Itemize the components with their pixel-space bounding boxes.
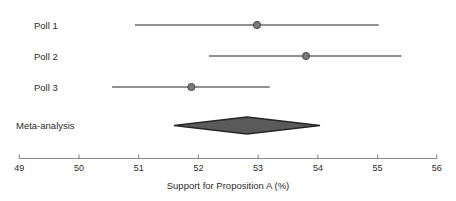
point-estimate-marker-poll2 [302,52,309,59]
forest-plot-canvas: Poll 1 Poll 2 Poll 3 Meta-analysis 49 50… [0,0,456,201]
point-estimate-marker-poll3 [188,83,195,90]
study-label-meta-analysis: Meta-analysis [16,120,75,131]
point-estimate-marker-poll1 [253,21,260,28]
x-tick-label-52: 52 [193,163,203,173]
forest-row-poll3 [112,83,270,90]
study-label-poll1: Poll 1 [34,20,58,31]
forest-row-poll2 [209,52,401,59]
x-tick-label-49: 49 [14,163,24,173]
forest-row-poll1 [135,21,379,28]
x-axis [19,155,437,159]
x-tick-label-53: 53 [253,163,263,173]
x-tick-label-51: 51 [134,163,144,173]
forest-row-meta-analysis [174,117,320,134]
study-label-poll3: Poll 3 [34,82,58,93]
x-axis-title: Support for Proposition A (%) [167,180,290,191]
x-tick-label-50: 50 [74,163,84,173]
meta-analysis-diamond [174,117,320,134]
x-tick-label-55: 55 [373,163,383,173]
x-tick-label-54: 54 [313,163,323,173]
forest-plot-figure: Poll 1 Poll 2 Poll 3 Meta-analysis 49 50… [0,0,456,201]
study-label-poll2: Poll 2 [34,51,58,62]
x-tick-label-56: 56 [432,163,442,173]
